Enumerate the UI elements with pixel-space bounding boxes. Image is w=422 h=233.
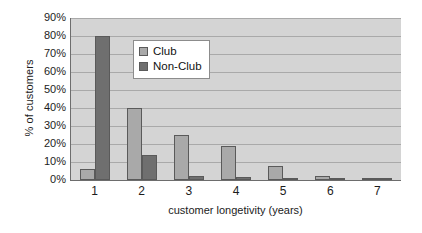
legend-item-club: Club (139, 44, 202, 59)
legend-item-nonclub: Non-Club (139, 59, 202, 74)
x-axis-tick-label: 3 (186, 184, 193, 198)
plot-area (70, 18, 401, 181)
x-axis-tick-label: 1 (91, 184, 98, 198)
x-axis-tick-label: 4 (233, 184, 240, 198)
x-axis-tick-label: 6 (327, 184, 334, 198)
y-axis-tick-label: 60% (26, 66, 66, 77)
bar-chart: % of customers 0%10%20%30%40%50%60%70%80… (0, 0, 422, 233)
chart-legend: ClubNon-Club (133, 40, 210, 79)
bar-non-club-3 (189, 176, 204, 180)
x-axis-ticks: 1234567 (70, 184, 401, 202)
y-axis-tick-label: 0% (26, 174, 66, 185)
bar-group (221, 18, 251, 180)
bars-layer (71, 18, 401, 180)
legend-label: Club (153, 45, 177, 58)
x-axis-tick-label: 2 (138, 184, 145, 198)
bar-non-club-4 (236, 177, 251, 180)
bar-group (315, 18, 345, 180)
legend-swatch-nonclub-icon (139, 62, 148, 71)
legend-label: Non-Club (153, 60, 202, 73)
legend-swatch-club-icon (139, 47, 148, 56)
bar-club-4 (221, 146, 236, 180)
bar-non-club-5 (283, 178, 298, 180)
bar-group (80, 18, 110, 180)
y-axis-ticks: 0%10%20%30%40%50%60%70%80%90% (26, 18, 66, 180)
bar-club-1 (80, 169, 95, 180)
y-axis-tick-label: 90% (26, 12, 66, 23)
y-axis-tick-label: 10% (26, 156, 66, 167)
bar-club-6 (315, 176, 330, 180)
bar-non-club-7 (377, 178, 392, 180)
x-axis-tick-label: 7 (374, 184, 381, 198)
y-axis-tick-label: 20% (26, 138, 66, 149)
bar-club-2 (127, 108, 142, 180)
y-axis-tick-label: 30% (26, 120, 66, 131)
y-axis-tick-label: 50% (26, 84, 66, 95)
bar-group (268, 18, 298, 180)
bar-club-3 (174, 135, 189, 180)
y-axis-tick-label: 70% (26, 48, 66, 59)
bar-non-club-2 (142, 155, 157, 180)
y-axis-tick-label: 80% (26, 30, 66, 41)
bar-club-7 (362, 178, 377, 180)
bar-club-5 (268, 166, 283, 180)
x-axis-title: customer longetivity (years) (70, 204, 401, 216)
bar-group (362, 18, 392, 180)
y-axis-tick-label: 40% (26, 102, 66, 113)
bar-non-club-6 (330, 178, 345, 180)
bar-non-club-1 (95, 36, 110, 180)
x-axis-tick-label: 5 (280, 184, 287, 198)
